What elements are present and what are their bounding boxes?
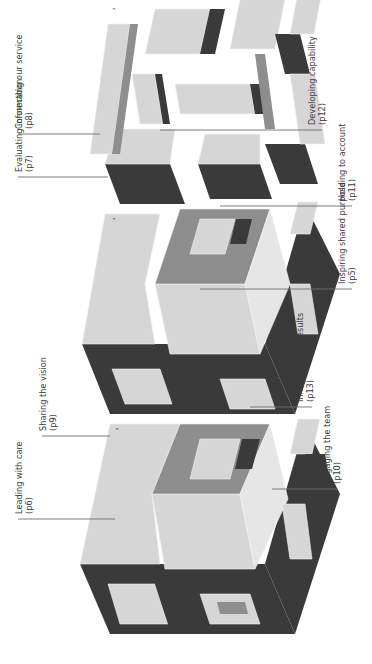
svg-text:Connecting our service: Connecting our service <box>14 34 24 129</box>
small-marker: a <box>111 7 116 10</box>
competency-cube-diagram: a a <box>0 0 372 664</box>
svg-text:Developing capability: Developing capability <box>307 36 317 125</box>
svg-text:(p6): (p6) <box>24 497 34 514</box>
svg-text:Leading with care: Leading with care <box>14 441 24 514</box>
svg-text:(p5): (p5) <box>347 267 357 284</box>
label-connecting-our-service: Connecting our service (p8) <box>14 34 100 134</box>
svg-text:(p13): (p13) <box>305 380 315 402</box>
cube-3: a <box>90 0 325 204</box>
svg-text:(p7): (p7) <box>24 155 34 172</box>
svg-text:(p10): (p10) <box>332 462 342 484</box>
svg-text:(p11): (p11) <box>347 179 357 201</box>
cube-1: a <box>80 419 340 634</box>
svg-text:Influencing for results: Influencing for results <box>295 313 305 402</box>
svg-text:(p9): (p9) <box>48 414 58 431</box>
svg-text:Sharing the vision: Sharing the vision <box>38 357 48 431</box>
svg-text:Engaging the team: Engaging the team <box>322 406 332 484</box>
svg-text:Holding to account: Holding to account <box>337 123 347 201</box>
svg-text:(p8): (p8) <box>24 112 34 129</box>
svg-text:(p12): (p12) <box>317 103 327 125</box>
